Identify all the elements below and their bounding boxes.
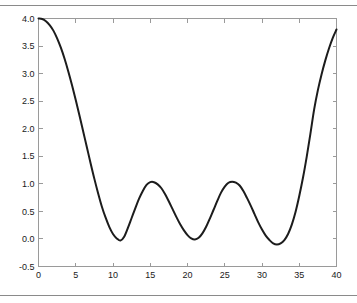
x-tick-label: 15 — [145, 270, 155, 280]
x-tick-label: 5 — [73, 270, 78, 280]
y-tick-label: 4.0 — [22, 14, 35, 24]
data-series-group — [39, 19, 337, 245]
y-tick-label: 3.0 — [22, 69, 35, 79]
tick-marks — [39, 19, 337, 267]
x-tick-label: 40 — [331, 270, 341, 280]
y-axis-tick-labels: -0.50.00.51.01.52.02.53.03.54.0 — [19, 14, 35, 272]
y-tick-label: -0.5 — [19, 262, 35, 272]
y-tick-label: 1.0 — [22, 179, 35, 189]
axes — [39, 19, 337, 267]
x-tick-label: 35 — [294, 270, 304, 280]
x-tick-label: 20 — [182, 270, 192, 280]
x-tick-label: 10 — [108, 270, 118, 280]
x-tick-label: 30 — [257, 270, 267, 280]
x-tick-label: 0 — [36, 270, 41, 280]
plot-box — [39, 19, 337, 267]
y-tick-label: 2.5 — [22, 96, 35, 106]
x-axis-tick-labels: 0510152025303540 — [36, 270, 342, 280]
y-tick-label: 0.5 — [22, 207, 35, 217]
y-tick-label: 1.5 — [22, 151, 35, 161]
line-chart: 0510152025303540 -0.50.00.51.01.52.02.53… — [0, 0, 357, 303]
figure-root: 0510152025303540 -0.50.00.51.01.52.02.53… — [0, 0, 357, 303]
y-tick-label: 2.0 — [22, 124, 35, 134]
y-tick-label: 3.5 — [22, 41, 35, 51]
chart-canvas: 0510152025303540 -0.50.00.51.01.52.02.53… — [0, 0, 357, 303]
data-curve — [39, 19, 337, 245]
y-tick-label: 0.0 — [22, 234, 35, 244]
x-tick-label: 25 — [220, 270, 230, 280]
